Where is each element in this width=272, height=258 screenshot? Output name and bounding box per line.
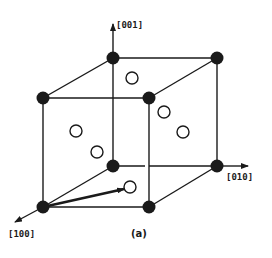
axis-label-001: [001] bbox=[116, 20, 143, 30]
lattice-vector-arrow bbox=[43, 189, 124, 207]
axis-z: [001] bbox=[113, 20, 143, 58]
face-atom-right bbox=[177, 126, 189, 138]
corner-atom-front-bottom-right bbox=[143, 201, 156, 214]
face-atom-top bbox=[126, 72, 138, 84]
face-center-atoms bbox=[70, 72, 189, 193]
axis-label-010: [010] bbox=[226, 172, 253, 182]
axis-label-100: [100] bbox=[8, 229, 35, 239]
face-atom-left bbox=[70, 125, 82, 137]
corner-atom-back-top-right bbox=[211, 52, 224, 65]
fcc-unit-cell-diagram: [001] [010] [100] (a) bbox=[0, 0, 272, 258]
corner-atom-front-bottom-left bbox=[37, 201, 50, 214]
face-atom-front bbox=[91, 146, 103, 158]
axis-x: [100] bbox=[8, 207, 43, 239]
figure-caption: (a) bbox=[131, 228, 147, 239]
corner-atom-back-bottom-right bbox=[211, 160, 224, 173]
corner-atom-front-top-left bbox=[37, 92, 50, 105]
corner-atom-front-top-right bbox=[143, 92, 156, 105]
corner-atom-back-bottom-left bbox=[107, 160, 120, 173]
face-atom-bottom bbox=[124, 181, 136, 193]
corner-atom-back-top-left bbox=[107, 52, 120, 65]
face-atom-right-upper bbox=[158, 106, 170, 118]
